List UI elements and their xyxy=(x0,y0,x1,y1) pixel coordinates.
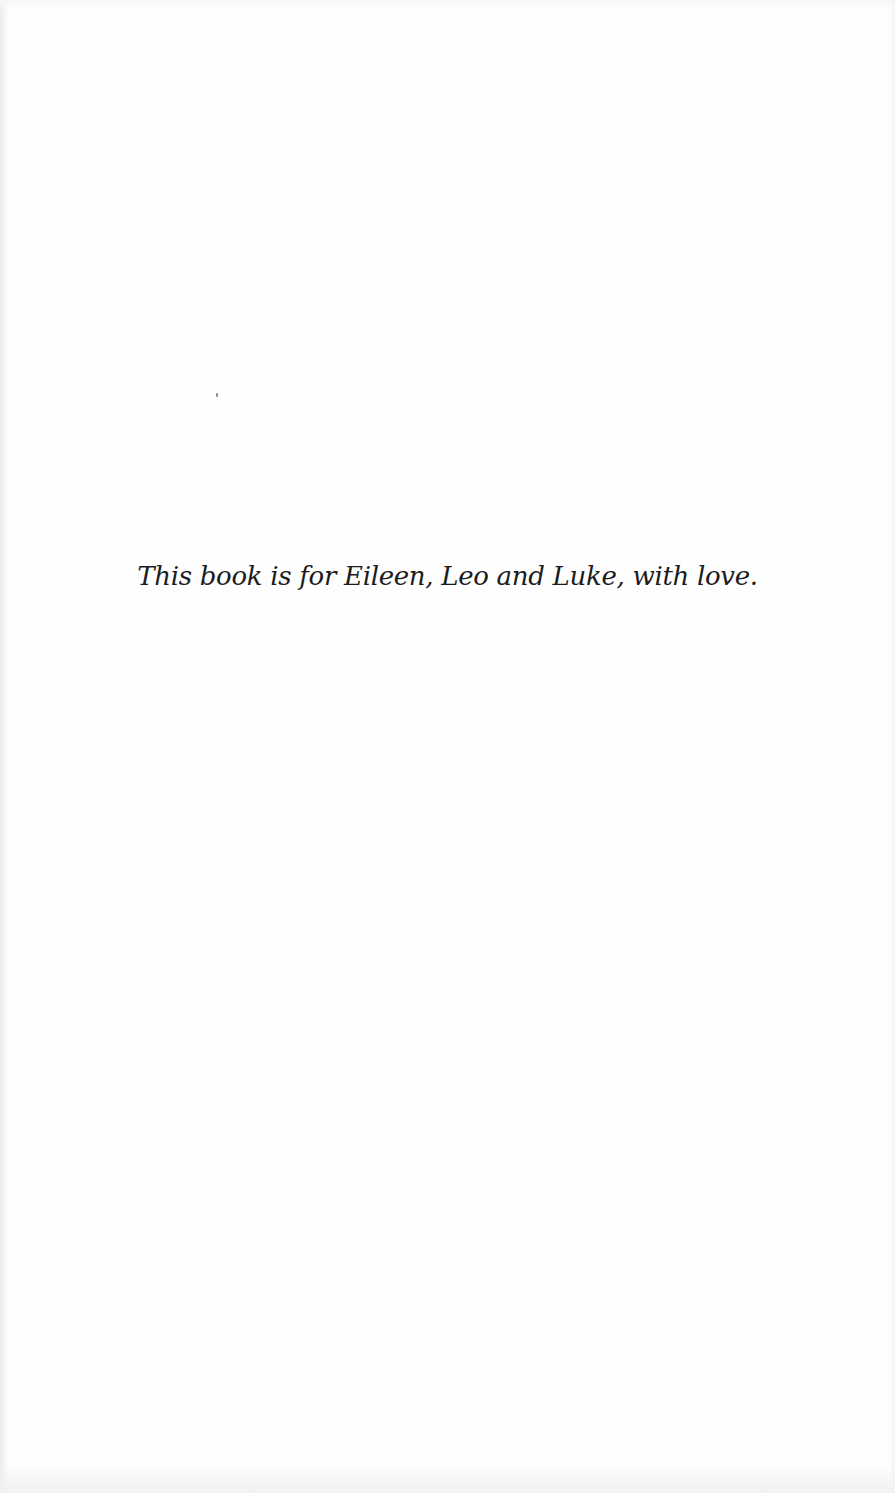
page-right-edge xyxy=(889,0,895,1493)
page-gutter-shadow xyxy=(0,0,8,1493)
book-page: This book is for Eileen, Leo and Luke, w… xyxy=(0,0,895,1493)
dedication-text: This book is for Eileen, Leo and Luke, w… xyxy=(0,556,895,596)
page-bottom-edge xyxy=(0,1463,895,1493)
scan-speck xyxy=(216,393,218,397)
page-top-edge xyxy=(0,0,895,10)
